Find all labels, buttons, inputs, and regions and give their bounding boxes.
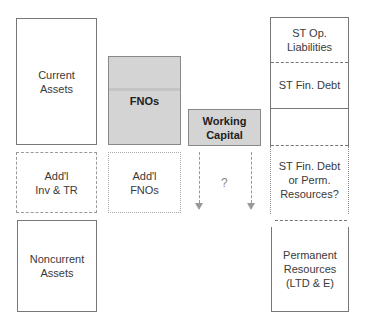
solid-divider: [271, 108, 348, 109]
st-op-liabilities-box: ST Op. Liabilities: [270, 17, 349, 62]
left-arrow-down-icon: [195, 203, 203, 210]
fnos-label: FNOs: [130, 94, 159, 108]
right-arrow-down-icon: [247, 203, 255, 210]
st-fin-debt-label: ST Fin. Debt: [279, 78, 341, 92]
current-assets-label: Current Assets: [38, 68, 75, 96]
additional-inv-tr-box: Add'l Inv & TR: [16, 152, 97, 213]
fnos-band: [109, 88, 180, 91]
current-assets-box: Current Assets: [16, 18, 97, 145]
permanent-resources-label: Permanent Resources (LTD & E): [283, 248, 337, 290]
working-capital-box: Working Capital: [188, 109, 261, 146]
fnos-box: FNOs: [108, 56, 181, 145]
working-capital-label: Working Capital: [203, 114, 247, 142]
st-fin-debt-or-perm-box: ST Fin. Debt or Perm. Resources?: [270, 146, 349, 214]
st-fin-debt-or-perm-label: ST Fin. Debt or Perm. Resources?: [279, 159, 341, 201]
st-fin-debt-box: ST Fin. Debt: [270, 62, 349, 108]
permanent-resources-box: Permanent Resources (LTD & E): [271, 227, 349, 312]
question-mark: ?: [221, 176, 228, 190]
noncurrent-assets-label: Noncurrent Assets: [30, 252, 84, 280]
st-op-liabilities-label: ST Op. Liabilities: [287, 26, 332, 54]
additional-fnos-label: Add'l FNOs: [130, 169, 159, 197]
noncurrent-assets-box: Noncurrent Assets: [17, 220, 97, 312]
additional-inv-tr-label: Add'l Inv & TR: [35, 169, 78, 197]
additional-fnos-box: Add'l FNOs: [108, 152, 181, 213]
right-arrow-shaft: [251, 152, 252, 203]
dashed-divider-3: [275, 220, 347, 221]
left-arrow-shaft: [199, 152, 200, 203]
